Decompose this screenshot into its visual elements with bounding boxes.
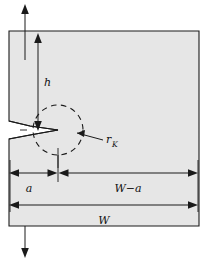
label-crack-length-a: a <box>26 182 33 195</box>
notched-specimen-diagram: h r K a W−a W <box>0 0 206 264</box>
label-ligament-w-minus-a: W−a <box>114 182 141 195</box>
figure-canvas: h r K a W−a W <box>0 0 206 264</box>
label-notch-radius-subscript: K <box>111 140 118 149</box>
label-width-w: W <box>98 214 111 227</box>
load-arrow-bottom-head <box>21 248 29 258</box>
load-arrow-bottom-group <box>21 226 29 258</box>
label-h: h <box>44 76 51 89</box>
load-arrow-top-head <box>21 4 29 14</box>
